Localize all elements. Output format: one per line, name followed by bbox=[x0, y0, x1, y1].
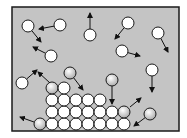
lattice-particle bbox=[46, 82, 58, 94]
lattice-particle bbox=[46, 94, 58, 106]
lattice-particle bbox=[58, 82, 70, 94]
lattice-particle bbox=[70, 94, 82, 106]
gas-particle bbox=[84, 29, 96, 41]
lattice-particle bbox=[70, 106, 82, 118]
gas-particle bbox=[22, 20, 34, 32]
lattice-particle bbox=[118, 106, 130, 118]
lattice-particle bbox=[82, 94, 94, 106]
lattice-particle bbox=[106, 106, 118, 118]
lattice-particle bbox=[58, 94, 70, 106]
gas-particle bbox=[144, 108, 156, 120]
gas-particle bbox=[146, 64, 158, 76]
lattice-particle bbox=[94, 94, 106, 106]
lattice-particle bbox=[70, 118, 82, 130]
gas-particle bbox=[45, 50, 57, 62]
lattice-particle bbox=[34, 118, 46, 130]
lattice-particle bbox=[82, 118, 94, 130]
gas-particle bbox=[152, 27, 164, 39]
lattice-particle bbox=[94, 118, 106, 130]
lattice-particle bbox=[94, 106, 106, 118]
lattice-particle bbox=[106, 118, 118, 130]
particle-diagram bbox=[0, 0, 187, 138]
lattice-particle bbox=[46, 106, 58, 118]
lattice-particle bbox=[118, 118, 130, 130]
lattice-particle bbox=[58, 106, 70, 118]
lattice-particle bbox=[46, 118, 58, 130]
gas-particle bbox=[54, 19, 66, 31]
gas-particle bbox=[64, 67, 76, 79]
lattice-particle bbox=[58, 118, 70, 130]
lattice-particle bbox=[82, 106, 94, 118]
gas-particle bbox=[122, 17, 134, 29]
gas-particle bbox=[106, 74, 118, 86]
gas-particle bbox=[116, 45, 128, 57]
gas-particle bbox=[16, 77, 28, 89]
